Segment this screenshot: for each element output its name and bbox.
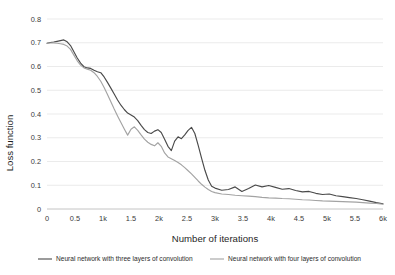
data-series-group — [47, 40, 383, 204]
x-tick-label: 0.5 — [70, 214, 80, 223]
x-axis-tick-labels: 00.51k1.52k2.53k3.54k4.55k5.56k — [45, 214, 387, 223]
y-tick-label: 0.1 — [31, 181, 41, 190]
y-tick-label: 0.4 — [31, 110, 41, 119]
x-tick-label: 5k — [323, 214, 331, 223]
series-line-1 — [47, 40, 383, 204]
x-axis-title: Number of iterations — [172, 233, 259, 244]
y-tick-label: 0.5 — [31, 86, 41, 95]
x-tick-label: 2.5 — [182, 214, 192, 223]
x-tick-label: 0 — [45, 214, 49, 223]
y-tick-label: 0.3 — [31, 133, 41, 142]
series-line-2 — [47, 43, 383, 204]
chart-canvas: 00.10.20.30.40.50.60.70.8 00.51k1.52k2.5… — [0, 0, 395, 275]
x-tick-label: 4k — [267, 214, 275, 223]
y-tick-label: 0 — [37, 205, 41, 214]
x-tick-label: 1k — [99, 214, 107, 223]
x-tick-label: 2k — [155, 214, 163, 223]
legend-label-1: Neural network with three layers of conv… — [56, 255, 193, 263]
y-tick-label: 0.2 — [31, 157, 41, 166]
y-tick-label: 0.6 — [31, 62, 41, 71]
loss-function-chart: 00.10.20.30.40.50.60.70.8 00.51k1.52k2.5… — [0, 0, 395, 275]
y-axis-title: Loss function — [4, 115, 15, 172]
x-tick-label: 3.5 — [238, 214, 248, 223]
x-tick-label: 6k — [379, 214, 387, 223]
legend: Neural network with three layers of conv… — [38, 255, 361, 263]
x-tick-label: 5.5 — [350, 214, 360, 223]
gridlines-group — [47, 19, 383, 185]
x-tick-label: 3k — [211, 214, 219, 223]
y-tick-label: 0.8 — [31, 15, 41, 24]
y-tick-label: 0.7 — [31, 38, 41, 47]
legend-label-2: Neural network with four layers of convo… — [228, 255, 361, 263]
x-tick-label: 1.5 — [126, 214, 136, 223]
x-tick-label: 4.5 — [294, 214, 304, 223]
y-axis-tick-labels: 00.10.20.30.40.50.60.70.8 — [31, 15, 41, 214]
